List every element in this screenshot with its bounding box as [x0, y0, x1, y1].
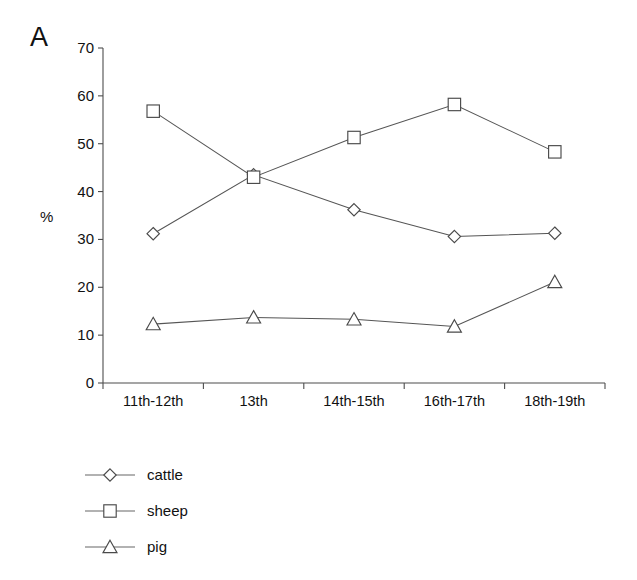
marker-square	[104, 505, 116, 517]
series-cattle	[147, 169, 561, 243]
marker-square	[348, 131, 360, 143]
series-pig	[146, 275, 562, 332]
marker-diamond	[104, 469, 116, 481]
legend-label-sheep: sheep	[147, 502, 188, 519]
legend-label-pig: pig	[147, 538, 167, 555]
y-axis: 010203040506070	[77, 39, 103, 391]
marker-diamond	[448, 230, 460, 242]
y-axis-tick-label: 70	[77, 39, 94, 56]
legend-item-pig[interactable]: pig	[85, 538, 167, 555]
chart-figure: A % 010203040506070 11th-12th13th14th-15…	[0, 0, 637, 580]
y-axis-tick-label: 10	[77, 326, 94, 343]
y-axis-tick-label: 40	[77, 183, 94, 200]
marker-triangle	[548, 275, 562, 287]
x-axis-tick-label: 16th-17th	[424, 393, 485, 409]
marker-triangle	[103, 540, 117, 552]
chart-legend: cattlesheeppig	[85, 466, 188, 555]
marker-square	[549, 146, 561, 158]
marker-triangle	[247, 311, 261, 323]
y-axis-tick-label: 0	[86, 374, 94, 391]
data-series-group	[146, 98, 562, 332]
legend-item-cattle[interactable]: cattle	[85, 466, 183, 483]
marker-square	[247, 171, 259, 183]
y-axis-tick-label: 50	[77, 135, 94, 152]
marker-diamond	[348, 204, 360, 216]
x-axis-tick-label: 18th-19th	[524, 393, 585, 409]
plot-area: 010203040506070 11th-12th13th14th-15th16…	[0, 0, 637, 580]
marker-diamond	[549, 227, 561, 239]
marker-square	[448, 98, 460, 110]
y-axis-tick-label: 60	[77, 87, 94, 104]
marker-diamond	[147, 227, 159, 239]
y-axis-tick-label: 30	[77, 230, 94, 247]
legend-label-cattle: cattle	[147, 466, 183, 483]
y-axis-tick-label: 20	[77, 278, 94, 295]
legend-item-sheep[interactable]: sheep	[85, 502, 188, 519]
x-axis-tick-label: 13th	[239, 393, 267, 409]
marker-square	[147, 105, 159, 117]
x-axis-tick-label: 14th-15th	[323, 393, 384, 409]
x-axis-tick-label: 11th-12th	[123, 393, 183, 409]
x-axis: 11th-12th13th14th-15th16th-17th18th-19th	[103, 383, 605, 409]
series-sheep	[147, 98, 561, 183]
